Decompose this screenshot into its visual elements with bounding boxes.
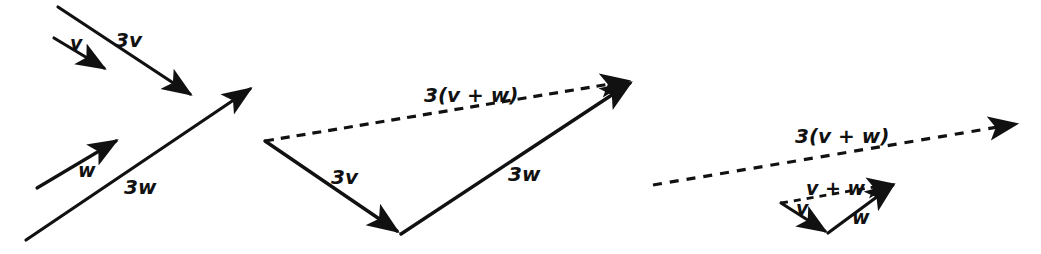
arrow-v-label: v (70, 32, 83, 54)
arrow-w-label: w (78, 159, 96, 181)
arrow-w-small-label: w (852, 206, 870, 228)
vector-diagram-canvas: v 3v w 3w 3v 3w 3(v + w) 3(v + w) v w (0, 0, 1041, 254)
arrow-3vplusw-long-label: 3(v + w) (795, 124, 889, 148)
arrow-3vplusw-resultant-label: 3(v + w) (424, 83, 518, 107)
arrow-3w-triangle-label: 3w (508, 162, 541, 186)
arrow-3v-triangle-label: 3v (331, 165, 359, 189)
vector-diagram-figure: v 3v w 3w 3v 3w 3(v + w) 3(v + w) v w (0, 0, 1041, 254)
arrow-3v-label: 3v (115, 28, 143, 52)
arrow-3w-label: 3w (124, 175, 157, 199)
arrow-vplusw-resultant-label: v + w (806, 177, 866, 199)
